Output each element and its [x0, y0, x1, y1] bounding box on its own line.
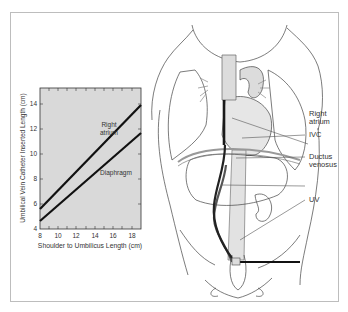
anatomy-illustration	[152, 25, 323, 298]
label-uv: UV	[309, 195, 319, 204]
x-tick: 14	[91, 232, 99, 239]
series-label-right-atrium-2: atrium	[100, 129, 118, 136]
label-right-atrium-2: atrium	[309, 117, 330, 126]
anatomy-labels: Right atrium IVC Ductus venosus UV	[309, 109, 337, 204]
figure-svg: Right atrium IVC Ductus venosus UV	[0, 0, 348, 312]
y-tick-labels: 4 6 8 10 12 14	[30, 100, 38, 232]
x-tick-labels: 8 10 12 14 16 18	[38, 232, 136, 239]
series-label-diaphragm: Diaphragm	[100, 169, 132, 177]
y-axis-title: Umbilical Vein Catheter Inserted Length …	[19, 93, 27, 222]
y-tick: 10	[30, 150, 38, 157]
label-ivc: IVC	[309, 130, 322, 139]
x-tick: 12	[72, 232, 80, 239]
x-tick: 18	[128, 232, 136, 239]
line-chart: Right atrium Diaphragm 4 6 8 10 12 14 8 …	[19, 88, 142, 250]
series-label-right-atrium-1: Right	[101, 121, 116, 129]
y-tick: 8	[33, 175, 37, 182]
x-tick: 16	[109, 232, 117, 239]
y-tick: 14	[30, 100, 38, 107]
x-axis-title: Shoulder to Umbilicus Length (cm)	[38, 242, 142, 250]
x-tick: 8	[38, 232, 42, 239]
x-tick: 10	[54, 232, 62, 239]
label-ductus-2: venosus	[309, 160, 337, 169]
y-tick: 12	[30, 125, 38, 132]
y-tick: 4	[33, 225, 37, 232]
y-tick: 6	[33, 200, 37, 207]
